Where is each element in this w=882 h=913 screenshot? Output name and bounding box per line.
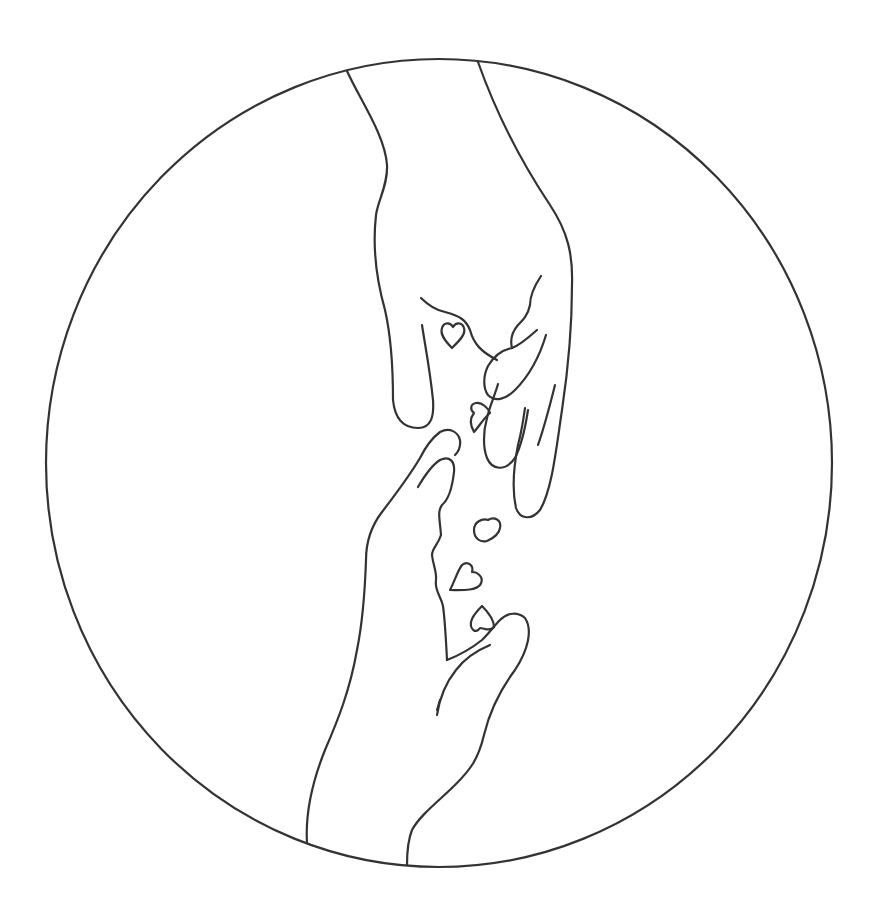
heart-icon xyxy=(474,518,500,541)
lower-hand xyxy=(307,430,529,865)
heart-icon xyxy=(450,563,482,590)
circle-frame xyxy=(46,59,832,867)
hearts xyxy=(441,323,500,631)
heart-icon xyxy=(441,323,464,348)
hands-hearts-illustration xyxy=(0,0,882,913)
heart-icon xyxy=(471,606,494,631)
